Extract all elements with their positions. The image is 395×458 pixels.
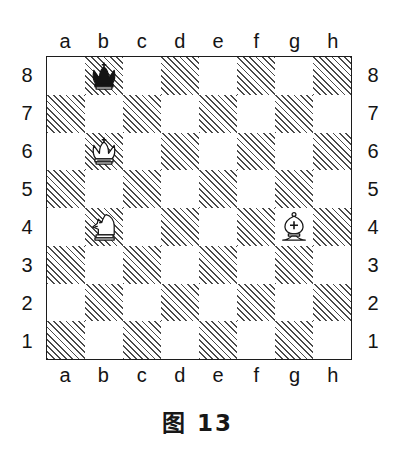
square-f7[interactable]	[237, 95, 275, 133]
square-b5[interactable]	[85, 170, 123, 208]
square-b7[interactable]	[85, 95, 123, 133]
square-b8[interactable]	[85, 57, 123, 95]
square-d6[interactable]	[161, 133, 199, 171]
rank-label-2-right: 2	[358, 284, 388, 322]
square-d4[interactable]	[161, 208, 199, 246]
square-h8[interactable]	[313, 57, 351, 95]
square-g5[interactable]	[275, 170, 313, 208]
square-h5[interactable]	[313, 170, 351, 208]
file-label-h-bottom: h	[314, 362, 352, 388]
rank-label-7-left: 7	[12, 94, 42, 132]
white-knight-icon[interactable]	[87, 210, 121, 244]
square-c3[interactable]	[123, 246, 161, 284]
square-e5[interactable]	[199, 170, 237, 208]
square-c5[interactable]	[123, 170, 161, 208]
file-label-e-bottom: e	[199, 362, 237, 388]
square-a8[interactable]	[47, 57, 85, 95]
square-h6[interactable]	[313, 133, 351, 171]
file-label-a-bottom: a	[46, 362, 84, 388]
square-a4[interactable]	[47, 208, 85, 246]
square-d7[interactable]	[161, 95, 199, 133]
square-f5[interactable]	[237, 170, 275, 208]
square-f2[interactable]	[237, 284, 275, 322]
square-d8[interactable]	[161, 57, 199, 95]
square-e6[interactable]	[199, 133, 237, 171]
file-label-e-top: e	[199, 28, 237, 54]
square-e7[interactable]	[199, 95, 237, 133]
square-a5[interactable]	[47, 170, 85, 208]
file-label-d-bottom: d	[161, 362, 199, 388]
rank-label-1-left: 1	[12, 322, 42, 360]
white-bishop-icon[interactable]	[277, 210, 311, 244]
square-d1[interactable]	[161, 321, 199, 359]
square-h3[interactable]	[313, 246, 351, 284]
rank-label-4-right: 4	[358, 208, 388, 246]
board-grid	[47, 57, 351, 359]
square-b2[interactable]	[85, 284, 123, 322]
square-g3[interactable]	[275, 246, 313, 284]
square-d2[interactable]	[161, 284, 199, 322]
rank-label-8-right: 8	[358, 56, 388, 94]
rank-label-8-left: 8	[12, 56, 42, 94]
file-label-g-top: g	[276, 28, 314, 54]
square-f8[interactable]	[237, 57, 275, 95]
black-king-icon[interactable]	[87, 59, 121, 93]
square-d5[interactable]	[161, 170, 199, 208]
square-f3[interactable]	[237, 246, 275, 284]
square-c4[interactable]	[123, 208, 161, 246]
square-f4[interactable]	[237, 208, 275, 246]
rank-label-7-right: 7	[358, 94, 388, 132]
square-a2[interactable]	[47, 284, 85, 322]
square-b3[interactable]	[85, 246, 123, 284]
rank-label-2-left: 2	[12, 284, 42, 322]
square-g2[interactable]	[275, 284, 313, 322]
file-label-a-top: a	[46, 28, 84, 54]
square-a3[interactable]	[47, 246, 85, 284]
square-e1[interactable]	[199, 321, 237, 359]
rank-labels-left: 8 7 6 5 4 3 2 1	[12, 56, 42, 360]
file-label-b-bottom: b	[84, 362, 122, 388]
square-g6[interactable]	[275, 133, 313, 171]
file-label-d-top: d	[161, 28, 199, 54]
square-f1[interactable]	[237, 321, 275, 359]
square-g1[interactable]	[275, 321, 313, 359]
square-g8[interactable]	[275, 57, 313, 95]
square-e2[interactable]	[199, 284, 237, 322]
rank-label-4-left: 4	[12, 208, 42, 246]
square-c7[interactable]	[123, 95, 161, 133]
figure-caption: 图 13	[0, 404, 395, 438]
square-h1[interactable]	[313, 321, 351, 359]
square-g4[interactable]	[275, 208, 313, 246]
square-a7[interactable]	[47, 95, 85, 133]
square-e8[interactable]	[199, 57, 237, 95]
square-c8[interactable]	[123, 57, 161, 95]
square-e4[interactable]	[199, 208, 237, 246]
square-a6[interactable]	[47, 133, 85, 171]
square-a1[interactable]	[47, 321, 85, 359]
rank-label-3-left: 3	[12, 246, 42, 284]
square-f6[interactable]	[237, 133, 275, 171]
white-king-icon[interactable]	[87, 134, 121, 168]
chess-board	[46, 56, 352, 360]
rank-label-5-left: 5	[12, 170, 42, 208]
square-b4[interactable]	[85, 208, 123, 246]
rank-label-6-left: 6	[12, 132, 42, 170]
square-b6[interactable]	[85, 133, 123, 171]
file-label-c-bottom: c	[123, 362, 161, 388]
square-h4[interactable]	[313, 208, 351, 246]
square-g7[interactable]	[275, 95, 313, 133]
file-label-f-top: f	[237, 28, 275, 54]
rank-label-6-right: 6	[358, 132, 388, 170]
square-c1[interactable]	[123, 321, 161, 359]
rank-label-5-right: 5	[358, 170, 388, 208]
square-e3[interactable]	[199, 246, 237, 284]
square-c6[interactable]	[123, 133, 161, 171]
square-d3[interactable]	[161, 246, 199, 284]
square-h7[interactable]	[313, 95, 351, 133]
file-label-c-top: c	[123, 28, 161, 54]
file-label-b-top: b	[84, 28, 122, 54]
square-c2[interactable]	[123, 284, 161, 322]
file-labels-top: a b c d e f g h	[46, 28, 352, 54]
square-b1[interactable]	[85, 321, 123, 359]
square-h2[interactable]	[313, 284, 351, 322]
